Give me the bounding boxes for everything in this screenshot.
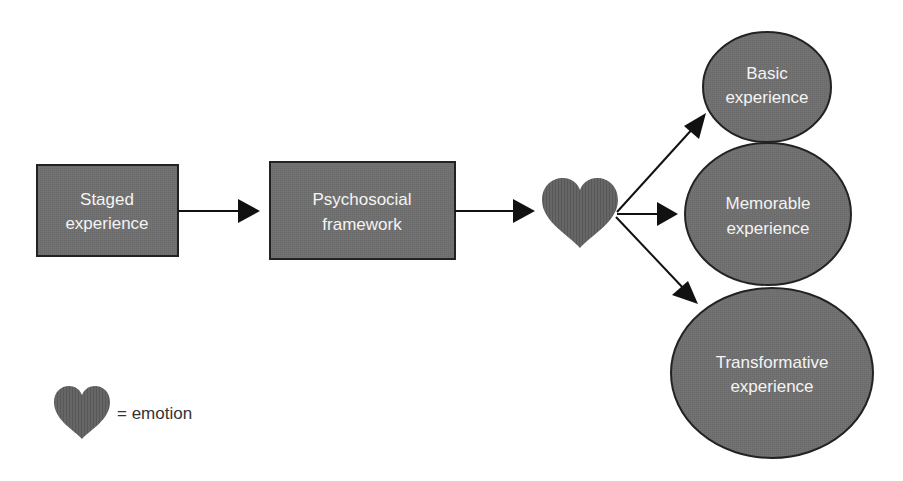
arrow-emotion-to-transformative <box>616 217 698 304</box>
node-staged-line1: Staged <box>80 190 134 209</box>
legend-heart-icon <box>54 386 110 439</box>
arrow-staged-to-psychosocial <box>178 199 260 223</box>
arrow-psychosocial-to-emotion <box>455 199 535 223</box>
legend: = emotion <box>54 386 192 439</box>
node-staged-experience: Staged experience <box>37 165 178 256</box>
node-basic-line2: experience <box>725 88 808 107</box>
node-transformative-line2: experience <box>730 377 813 396</box>
arrow-emotion-to-memorable <box>617 202 678 226</box>
node-memorable-line2: experience <box>726 219 809 238</box>
node-psychosocial-line2: framework <box>322 215 402 234</box>
node-transformative-line1: Transformative <box>716 353 829 372</box>
node-memorable-line1: Memorable <box>725 194 810 213</box>
experience-flow-diagram: Staged experience Psychosocial framework… <box>0 0 903 481</box>
node-psychosocial-line1: Psychosocial <box>312 190 411 209</box>
node-memorable-experience: Memorable experience <box>685 143 851 285</box>
node-basic-experience: Basic experience <box>703 32 831 142</box>
legend-label: = emotion <box>117 404 192 423</box>
node-psychosocial-framework: Psychosocial framework <box>270 162 455 259</box>
heart-icon <box>542 178 618 248</box>
node-basic-line1: Basic <box>746 64 788 83</box>
node-transformative-experience: Transformative experience <box>671 288 873 458</box>
node-staged-line2: experience <box>65 214 148 233</box>
